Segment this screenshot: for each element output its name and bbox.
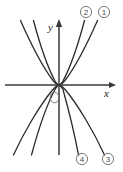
callout-1-number: 1 xyxy=(102,8,107,17)
x-axis-label: x xyxy=(103,87,109,99)
callout-1: 1 xyxy=(98,6,109,17)
callout-2: 2 xyxy=(80,6,91,17)
curve-4 xyxy=(32,85,79,155)
curve-4-left-branch xyxy=(32,85,60,155)
math-figure-coordinate-plane: x y 2 1 4 3 O xyxy=(0,0,123,172)
callout-4-number: 4 xyxy=(80,155,85,164)
callout-3-number: 3 xyxy=(106,155,111,164)
curve-1-right-branch xyxy=(59,21,98,86)
y-axis-arrowhead xyxy=(56,19,62,27)
y-axis-label: y xyxy=(47,21,53,33)
callout-2-number: 2 xyxy=(84,8,89,17)
callout-4: 4 xyxy=(76,153,87,164)
curve-4-right-branch xyxy=(59,85,79,155)
curve-2-right-branch xyxy=(59,21,85,86)
x-axis-arrowhead xyxy=(109,82,116,88)
curve-2-left-branch xyxy=(34,21,60,86)
axes-group xyxy=(5,19,116,155)
callout-3: 3 xyxy=(102,153,113,164)
curve-3-right-branch xyxy=(59,85,105,155)
curve-1-left-branch xyxy=(21,21,60,86)
